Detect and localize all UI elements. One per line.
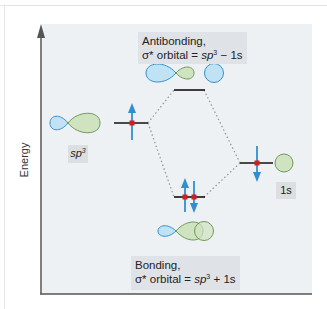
- sp3-orbital-icon: [50, 113, 100, 133]
- y-axis-arrow-icon: [37, 24, 45, 38]
- bonding-orbital-icon: [158, 222, 214, 241]
- 1s-electron-down-icon: [253, 146, 261, 182]
- antibonding-formula: σ* orbital = sp3 − 1s: [142, 48, 243, 62]
- bonding-electron-pair-icon: [181, 178, 198, 213]
- bonding-title: Bonding,: [135, 258, 236, 272]
- sp3-label: sp3: [68, 145, 88, 163]
- bonding-formula: σ* orbital = sp3 + 1s: [135, 272, 236, 286]
- antibonding-label-box: Antibonding, σ* orbital = sp3 − 1s: [138, 32, 247, 64]
- sp3-electron-up-icon: [128, 103, 136, 140]
- bonding-label-box: Bonding, σ* orbital = sp3 + 1s: [131, 256, 240, 290]
- antibonding-orbital-icon: [146, 64, 224, 83]
- 1s-label: 1s: [276, 182, 296, 199]
- 1s-orbital-icon: [275, 154, 293, 172]
- y-axis: [37, 24, 45, 294]
- correlation-lines: [148, 90, 240, 197]
- antibonding-title: Antibonding,: [142, 34, 243, 48]
